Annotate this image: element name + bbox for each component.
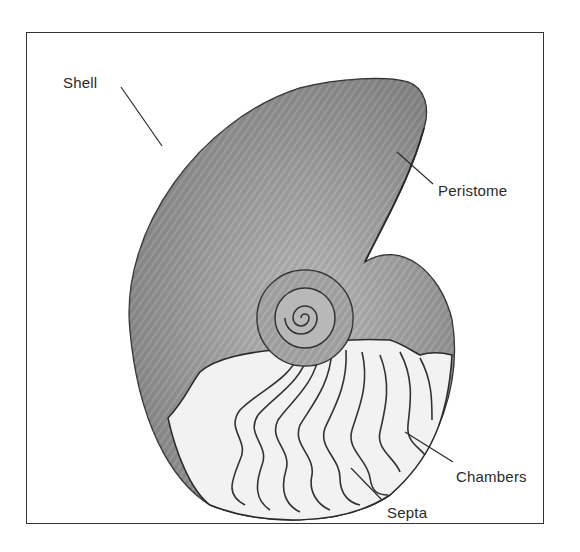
inner-whorl (257, 270, 353, 366)
leader-shell (121, 87, 162, 146)
label-septa: Septa (387, 504, 427, 521)
label-shell: Shell (63, 74, 97, 91)
label-chambers: Chambers (456, 468, 527, 485)
label-peristome: Peristome (438, 182, 507, 199)
chambers-region (168, 339, 452, 519)
